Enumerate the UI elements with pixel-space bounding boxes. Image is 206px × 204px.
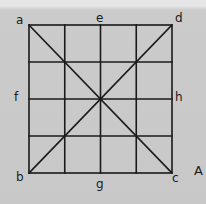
- label-a: a: [16, 14, 23, 26]
- label-g: g: [96, 178, 104, 190]
- label-c: c: [172, 172, 179, 184]
- label-b: b: [16, 171, 24, 183]
- label-e: e: [96, 12, 103, 24]
- label-figure-id: A: [194, 164, 203, 177]
- label-h: h: [175, 91, 183, 103]
- label-d: d: [175, 12, 183, 24]
- label-f: f: [14, 91, 18, 103]
